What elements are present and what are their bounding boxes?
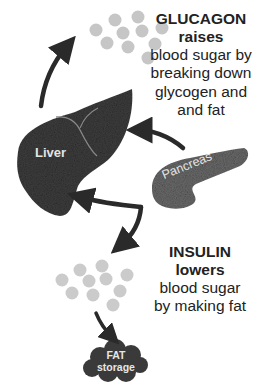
liver-label: Liver <box>35 145 66 160</box>
arrow-pancreas-to-liver-top <box>139 130 183 148</box>
glucagon-description-line: glycogen and <box>142 83 260 101</box>
glucagon-description-line: and fat <box>142 101 260 119</box>
arrow-insulin-to-fat <box>96 313 112 337</box>
glucagon-hormone-label: GLUCAGON <box>142 10 260 28</box>
insulin-description-line: blood sugar <box>140 279 260 297</box>
arrow-pancreas-to-insulin <box>121 207 141 245</box>
fat-storage-line2: storage <box>90 362 142 374</box>
glucagon-text-block: GLUCAGON raises blood sugar by breaking … <box>142 10 260 119</box>
fat-storage-line1: FAT <box>90 350 142 362</box>
insulin-text-block: INSULIN lowers blood sugar by making fat <box>140 243 260 316</box>
fat-storage-label: FAT storage <box>90 350 142 373</box>
insulin-description-line: by making fat <box>140 297 260 315</box>
insulin-action-label: lowers <box>140 261 260 279</box>
glucagon-description-line: breaking down <box>142 64 260 82</box>
diagram-canvas: GLUCAGON raises blood sugar by breaking … <box>0 0 260 392</box>
glucagon-description-line: blood sugar by <box>142 46 260 64</box>
glucagon-action-label: raises <box>142 28 260 46</box>
insulin-hormone-label: INSULIN <box>140 243 260 261</box>
arrow-pancreas-to-liver-bottom <box>80 197 141 207</box>
arrow-liver-to-glucagon <box>41 46 67 106</box>
glucose-cluster-bottom <box>56 260 134 312</box>
